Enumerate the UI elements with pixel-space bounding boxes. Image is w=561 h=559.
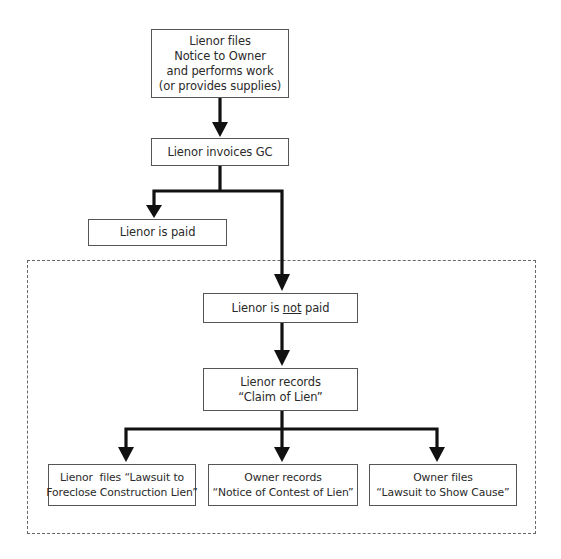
- node-text-line: Lienor files “Lawsuit to: [60, 470, 184, 485]
- node-lawsuit-show-cause: Owner files “Lawsuit to Show Cause”: [369, 464, 517, 506]
- node-text-line: Owner records: [244, 470, 322, 485]
- node-claim-of-lien: Lienor records “Claim of Lien”: [203, 368, 358, 411]
- node-text-line: Lienor invoices GC: [167, 145, 272, 160]
- node-text-line: (or provides supplies): [159, 79, 281, 94]
- node-lienor-paid: Lienor is paid: [88, 219, 227, 246]
- node-lawsuit-foreclose: Lienor files “Lawsuit to Foreclose Const…: [48, 464, 196, 506]
- node-text-line: Lienor records: [240, 375, 321, 390]
- node-notice-to-owner: Lienor files Notice to Owner and perform…: [151, 29, 289, 98]
- arrowhead-icon: [274, 274, 290, 291]
- text-prefix: Lienor is: [232, 301, 283, 315]
- node-text-line: Lienor is not paid: [232, 301, 330, 316]
- node-text-line: and performs work: [167, 64, 274, 79]
- arrowhead-icon: [118, 447, 134, 462]
- node-text-line: “Lawsuit to Show Cause”: [376, 485, 509, 500]
- arrowhead-icon: [274, 447, 290, 462]
- node-text-line: Lienor files: [189, 34, 251, 49]
- arrowhead-icon: [146, 205, 162, 218]
- node-text-line: “Notice of Contest of Lien”: [212, 485, 353, 500]
- text-emphasis-not: not: [283, 301, 302, 315]
- arrowhead-icon: [274, 350, 290, 366]
- node-text-line: Notice to Owner: [174, 49, 266, 64]
- node-text-line: Foreclose Construction Lien”: [46, 485, 197, 500]
- node-text-line: Owner files: [413, 470, 473, 485]
- node-invoice-gc: Lienor invoices GC: [151, 138, 289, 166]
- node-notice-of-contest: Owner records “Notice of Contest of Lien…: [208, 464, 358, 506]
- node-text-line: Lienor is paid: [120, 225, 196, 240]
- node-lienor-not-paid: Lienor is not paid: [203, 293, 358, 323]
- arrowhead-icon: [212, 122, 228, 137]
- arrowhead-icon: [429, 447, 445, 462]
- text-suffix: paid: [301, 301, 329, 315]
- node-text-line: “Claim of Lien”: [238, 390, 322, 405]
